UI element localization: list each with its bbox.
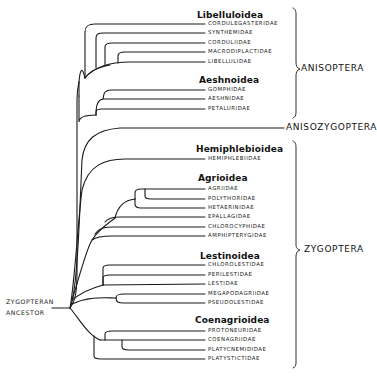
coenagrioidea-stem bbox=[70, 308, 100, 340]
agriidae-node bbox=[115, 199, 135, 218]
family-perilestidae: PERILESTIDAE bbox=[208, 272, 252, 277]
family-aeshnidae: AESHNIDAE bbox=[208, 96, 244, 101]
family-corduliidae: CORDULIIDAE bbox=[208, 40, 251, 45]
libellulidae-branch bbox=[85, 62, 205, 78]
group-label-anisoptera: ANISOPTERA bbox=[301, 64, 364, 73]
family-amphipterygidae: AMPHIPTERYGIDAE bbox=[208, 233, 267, 238]
family-lestidae: LESTIDAE bbox=[208, 281, 238, 286]
platycnemididae-branch bbox=[122, 340, 205, 350]
family-petaluridae: PETALURIDAE bbox=[208, 106, 250, 111]
family-megapodagriidae: MEGAPODAGRIIDAE bbox=[208, 291, 270, 296]
protoneuridae-branch bbox=[105, 331, 205, 340]
libelluloidea-node bbox=[85, 65, 110, 78]
family-synthemidae: SYNTHEMIDAE bbox=[208, 30, 253, 35]
hetaerinidae-branch bbox=[135, 199, 205, 208]
family-macrodiplactidae: MACRODIPLACTIDAE bbox=[208, 49, 272, 54]
family-polythoridae: POLYTHORIDAE bbox=[208, 196, 256, 201]
zygoptera-bracket bbox=[293, 141, 300, 368]
aeshnoidea-node bbox=[96, 99, 205, 115]
family-pseudolestidae: PSEUDOLESTIDAE bbox=[208, 300, 264, 305]
pseudolestidae-branch bbox=[116, 298, 205, 303]
chlorocyphidae-branch bbox=[95, 227, 205, 234]
gomphidae-branch bbox=[103, 90, 205, 99]
macrodiplactidae-branch bbox=[118, 52, 205, 63]
group-label-anisozygoptera: ANISOZYGOPTERA bbox=[286, 123, 377, 132]
anisoptera-base bbox=[79, 70, 85, 82]
family-platystictidae: PLATYSTICTIDAE bbox=[208, 356, 260, 361]
hemiphlebiidae-branch bbox=[70, 159, 205, 308]
perilestidae-branch bbox=[103, 275, 205, 285]
superfamily-coenagrioidea: Coenagrioidea bbox=[195, 316, 270, 325]
family-hetaerinidae: HETAERINIDAE bbox=[208, 205, 254, 210]
megapodagriidae-stem bbox=[72, 298, 116, 304]
amphipterygidae-branch bbox=[92, 236, 205, 240]
group-label-zygoptera: ZYGOPTERA bbox=[304, 245, 364, 254]
family-hemiphlebiidae: HEMIPHLEBIIDAE bbox=[208, 156, 261, 161]
petaluridae-branch bbox=[96, 109, 205, 115]
superfamily-libelluloidea: Libelluloidea bbox=[197, 11, 263, 20]
family-coenagriidae: COENAGRIIDAE bbox=[208, 337, 256, 342]
family-epallagidae: EPALLAGIDAE bbox=[208, 214, 251, 219]
aeshnoidea-link bbox=[79, 96, 96, 122]
family-gomphidae: GOMPHIDAE bbox=[208, 87, 246, 92]
family-cordulegasteridae: CORDULEGASTERIDAE bbox=[208, 21, 278, 26]
synthemidae-branch bbox=[96, 33, 205, 68]
megapodagriidae-branch bbox=[116, 294, 205, 298]
anisoptera-bracket bbox=[293, 8, 300, 118]
lestidae-branch bbox=[103, 284, 205, 285]
root-label-line2: ANCESTOR bbox=[6, 310, 45, 316]
family-chlorolestidae: CHLOROLESTIDAE bbox=[208, 262, 264, 267]
family-agriidae: AGRIIDAE bbox=[208, 186, 238, 191]
superfamily-lestinoidea: Lestinoidea bbox=[200, 252, 260, 261]
family-libellulidae: LIBELLULIDAE bbox=[208, 59, 252, 64]
family-protoneuridae: PROTONEURIDAE bbox=[208, 328, 262, 333]
root-label-line1: ZYGOPTERAN bbox=[6, 299, 54, 305]
polythoridae-branch bbox=[145, 189, 205, 199]
cordulegasteridae-branch bbox=[85, 24, 205, 78]
superfamily-agrioidea: Agrioidea bbox=[198, 174, 248, 183]
superfamily-aeshnoidea: Aeshnoidea bbox=[199, 76, 259, 85]
family-platycnemididae: PLATYCNEMIDIDAE bbox=[208, 347, 267, 352]
superfamily-hemiphlebioidea: Hemiphlebioidea bbox=[196, 145, 283, 154]
epallagidae-branch bbox=[105, 217, 205, 222]
family-chlorocyphidae: CHLOROCYPHIDAE bbox=[208, 224, 266, 229]
